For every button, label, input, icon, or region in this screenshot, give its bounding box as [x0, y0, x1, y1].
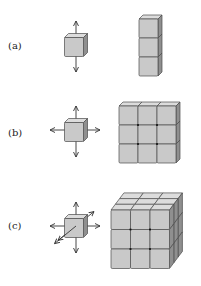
cube-front-face [131, 210, 151, 230]
panel-b [50, 102, 180, 163]
junction-dot [149, 248, 151, 250]
cube-side-face [84, 34, 88, 57]
cube-front-face [111, 249, 131, 269]
panel-label-a: (a) [8, 40, 22, 51]
cube-front-face [139, 19, 158, 38]
junction-dot [129, 228, 131, 230]
cube-front-face [65, 123, 84, 142]
cube-front-face [157, 144, 176, 163]
cube-side-face [84, 215, 88, 238]
junction-dot [149, 228, 151, 230]
cube-front-face [139, 38, 158, 57]
cube-front-face [138, 144, 157, 163]
junction-dot [129, 248, 131, 250]
cube-front-face [150, 210, 170, 230]
junction-dot [156, 124, 158, 126]
cube-front-face [119, 144, 138, 163]
cube-side-face [84, 119, 88, 142]
junction-dot [156, 143, 158, 145]
cube-figure: (a) (b) (c) [0, 0, 201, 286]
cube-front-face [138, 106, 157, 125]
panel-c [50, 193, 182, 269]
panel-a [65, 15, 163, 76]
panel-label-b: (b) [8, 127, 22, 138]
cube-front-face [139, 57, 158, 76]
cube-front-face [157, 106, 176, 125]
junction-dot [137, 143, 139, 145]
cube-front-face [111, 210, 131, 230]
junction-dot [137, 124, 139, 126]
cube-front-face [119, 125, 138, 144]
cube-front-face [111, 230, 131, 250]
cube-front-face [65, 38, 84, 57]
cube-side-face [176, 140, 180, 163]
cube-front-face [150, 230, 170, 250]
panel-label-c: (c) [8, 220, 22, 231]
cube-front-face [131, 249, 151, 269]
cube-front-face [150, 249, 170, 269]
cube-front-face [119, 106, 138, 125]
cube-front-face [138, 125, 157, 144]
cube-front-face [131, 230, 151, 250]
cube-front-face [157, 125, 176, 144]
cube-side-face [158, 53, 162, 76]
